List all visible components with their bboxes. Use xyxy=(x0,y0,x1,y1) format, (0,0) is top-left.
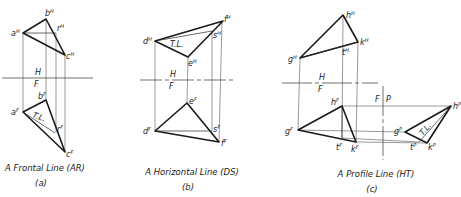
label-d-f: dF xyxy=(143,126,151,136)
triangle-front-view xyxy=(298,106,356,142)
sublabel-b: (b) xyxy=(182,182,194,192)
fold-label-h: H xyxy=(170,70,176,79)
panel-a xyxy=(2,19,93,152)
fold-label-f: F xyxy=(34,80,39,89)
label-k-f: kF xyxy=(351,144,359,154)
descriptive-geometry-figure: aH bH rH cH H F bF aF T.L. rF cF dH fH s… xyxy=(0,0,461,197)
label-t-f: tF xyxy=(336,142,342,152)
true-length-mark: T.L. xyxy=(170,40,183,49)
label-b-h: bH xyxy=(45,8,54,18)
label-h-p: hP xyxy=(453,101,461,111)
label-s-h: sH xyxy=(213,30,221,40)
label-t-p: tP xyxy=(410,142,416,152)
caption-c: A Profile Line (HT) xyxy=(337,169,415,179)
label-f-h: fH xyxy=(224,14,231,24)
fold2-label-f: F xyxy=(375,95,380,104)
caption-a: A Frontal Line (AR) xyxy=(4,163,85,173)
label-k-h: kH xyxy=(360,37,369,47)
fold-label-h: H xyxy=(35,68,41,77)
projector-g xyxy=(298,58,300,130)
label-e-f: eF xyxy=(189,96,197,106)
label-f-f: fF xyxy=(221,138,227,148)
label-e-h: eH xyxy=(188,58,197,68)
fold-label-h: H xyxy=(319,73,325,82)
label-g-p: gP xyxy=(394,126,402,136)
sublabel-c: (c) xyxy=(366,184,377,194)
triangle-top-view xyxy=(300,15,358,58)
label-h-h: hH xyxy=(346,10,355,20)
label-g-f: gF xyxy=(285,126,293,136)
projector-k xyxy=(356,42,358,142)
fold-label-f: F xyxy=(318,85,323,94)
label-c-f: cF xyxy=(66,149,73,159)
label-c-h: cH xyxy=(66,51,74,61)
sublabel-a: (a) xyxy=(35,178,47,188)
label-a-h: aH xyxy=(11,28,20,38)
triangle-front-view xyxy=(155,103,219,142)
caption-b: A Horizontal Line (DS) xyxy=(144,167,239,177)
label-t-h: tH xyxy=(342,47,349,57)
label-d-h: dH xyxy=(143,36,152,46)
label-r-f: rF xyxy=(57,124,63,134)
label-r-h: rH xyxy=(57,23,64,33)
label-b-f: bF xyxy=(38,91,46,101)
label-k-p: kP xyxy=(428,142,436,152)
fold-label-f: F xyxy=(169,82,174,91)
label-h-f: hF xyxy=(331,97,339,107)
label-g-h: gH xyxy=(288,54,297,64)
fold2-label-p: P xyxy=(386,95,391,104)
label-a-f: aF xyxy=(11,107,19,117)
